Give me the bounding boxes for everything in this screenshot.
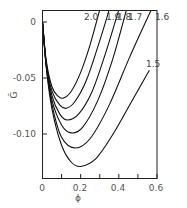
curve-label-1-5: 1.5 — [146, 59, 160, 69]
curve-label-1-7: 1.7 — [128, 12, 142, 22]
y-tick-label-0: 0 — [30, 17, 36, 27]
curve-label-2-0: 2.0 — [84, 12, 99, 22]
y-axis-title: G̃ — [8, 91, 19, 98]
curve-2-0 — [43, 10, 100, 99]
x-tick-label-0: 0 — [39, 183, 45, 193]
y-axis-ticks — [43, 22, 48, 134]
curve-1-8 — [43, 10, 119, 120]
x-tick-label-04: 0.4 — [111, 183, 126, 193]
y-tick-label-neg010: -0.10 — [13, 129, 37, 139]
chart-canvas: 0 -0.05 -0.10 0 0.2 0.4 0.6 ϕ G̃ 2.0 1.9… — [0, 0, 187, 208]
curves-group — [43, 10, 152, 167]
x-axis-ticks — [43, 174, 158, 179]
curve-1-9 — [43, 10, 110, 109]
x-tick-label-02: 0.2 — [73, 183, 87, 193]
curve-1-5 — [43, 22, 150, 167]
x-tick-label-06: 0.6 — [149, 183, 164, 193]
y-tick-label-neg005: -0.05 — [13, 73, 36, 83]
curve-1-7 — [43, 10, 127, 133]
x-axis-title: ϕ — [75, 193, 81, 203]
curve-label-1-6: 1.6 — [155, 12, 170, 22]
